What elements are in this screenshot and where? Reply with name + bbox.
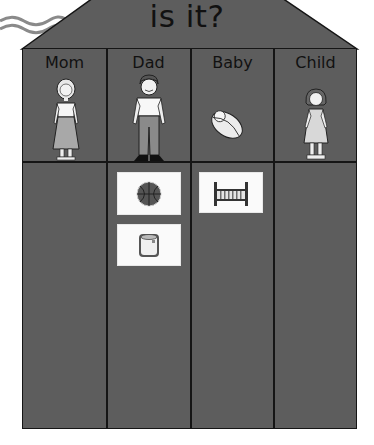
paint-can-icon [138, 231, 160, 259]
column-header-mom: Mom [23, 53, 106, 72]
column-header-baby: Baby [191, 53, 274, 72]
header-divider [23, 161, 356, 163]
item-card-basketball[interactable] [117, 172, 181, 215]
crib-icon [211, 179, 251, 207]
page-title: is it? [0, 0, 374, 34]
swaddled-baby-icon [207, 107, 247, 143]
basketball-icon [136, 181, 162, 207]
column-header-child: Child [274, 53, 357, 72]
woman-icon [49, 77, 83, 161]
girl-icon [300, 87, 332, 161]
column-divider [273, 49, 275, 428]
column-divider [190, 49, 192, 428]
sorting-chart: Mom Dad Baby Child [22, 48, 357, 429]
column-header-dad: Dad [107, 53, 190, 72]
man-icon [131, 73, 167, 162]
item-card-paint-can[interactable] [117, 224, 181, 266]
column-divider [106, 49, 108, 428]
item-card-crib[interactable] [199, 172, 263, 213]
